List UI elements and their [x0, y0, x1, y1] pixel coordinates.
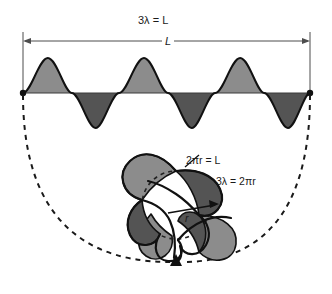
label-three-lambda-equals-L: 3λ = L: [138, 15, 168, 26]
label-three-lambda-equals-circumference: 3λ = 2πr: [216, 176, 256, 187]
label-length-L: L: [162, 36, 174, 47]
label-radius-r: r: [185, 213, 189, 224]
label-circumference-equals-L: 2πr = L: [186, 155, 220, 166]
